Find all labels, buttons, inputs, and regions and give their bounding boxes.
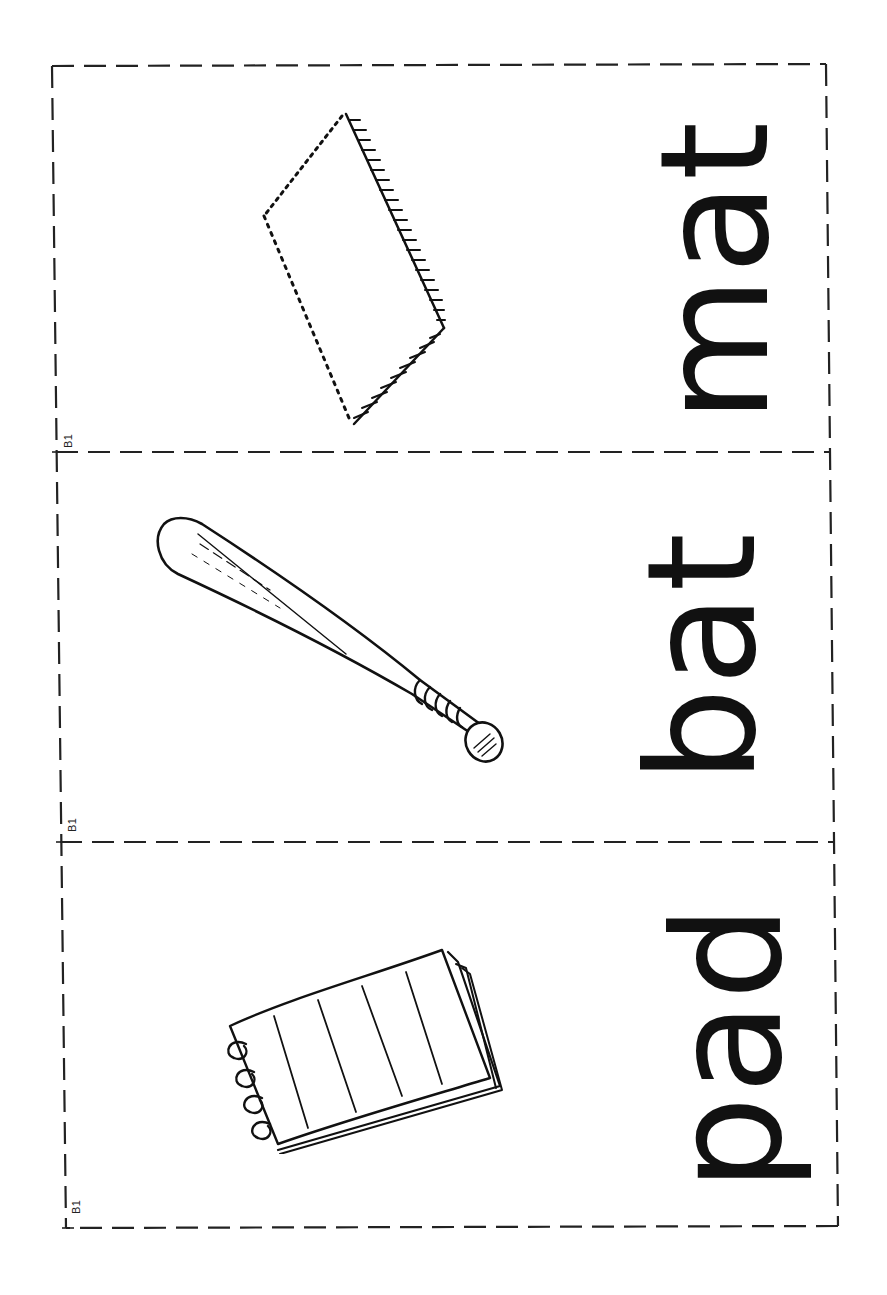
card-word: mat — [640, 120, 790, 423]
baseball-bat-illustration — [150, 512, 512, 792]
card-bat: B1 bat — [54, 452, 834, 842]
flashcard-sheet: B1 — [0, 0, 887, 1295]
card-label: B1 — [66, 818, 78, 832]
card-label: B1 — [62, 434, 74, 448]
card-word: bat — [627, 531, 777, 783]
card-mat: B1 — [54, 66, 834, 452]
mat-illustration — [254, 106, 464, 436]
card-pad: B1 pad — [54, 842, 834, 1228]
card-word: pad — [653, 903, 803, 1191]
spiral-notepad-illustration — [210, 938, 510, 1154]
card-label: B1 — [70, 1200, 82, 1214]
